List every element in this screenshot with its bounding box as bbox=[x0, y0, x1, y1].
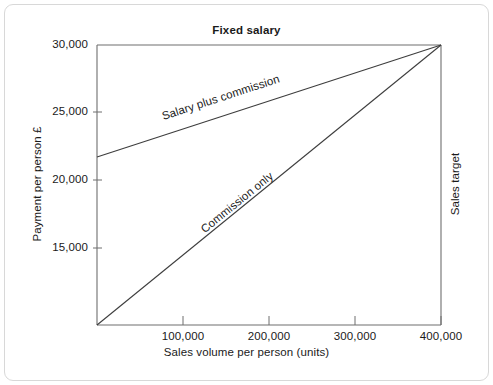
y-tick-label-15000: 15,000 bbox=[28, 241, 88, 253]
chart-title: Fixed salary bbox=[0, 24, 493, 36]
chart-figure: Fixed salary Sales volume per person (un… bbox=[0, 0, 493, 385]
x-tick-label-300000: 300,000 bbox=[315, 330, 395, 342]
series-line-salary-plus-commission bbox=[97, 45, 441, 157]
x-axis-ticks bbox=[183, 316, 441, 325]
x-tick-label-400000: 400,000 bbox=[401, 330, 481, 342]
x-axis-title: Sales volume per person (units) bbox=[0, 346, 493, 358]
x-tick-label-100000: 100,000 bbox=[143, 330, 223, 342]
y-tick-label-20000: 20,000 bbox=[28, 173, 88, 185]
right-axis-title: Sales target bbox=[449, 114, 461, 254]
y-tick-label-30000: 30,000 bbox=[28, 38, 88, 50]
x-tick-label-200000: 200,000 bbox=[229, 330, 309, 342]
y-tick-label-25000: 25,000 bbox=[28, 105, 88, 117]
